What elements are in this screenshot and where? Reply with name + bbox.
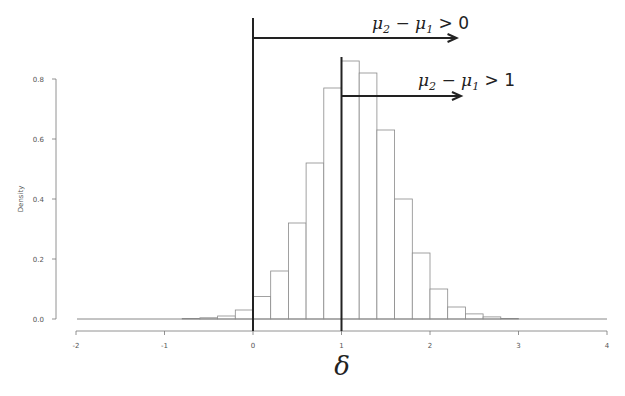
histogram-bar <box>377 130 395 319</box>
histogram-bar <box>235 310 253 319</box>
histogram-bar <box>448 307 466 319</box>
histogram-bar <box>324 88 342 319</box>
y-tick-label: 0.6 <box>33 136 45 144</box>
histogram-bar <box>342 61 360 319</box>
y-axis-label: Density <box>17 186 25 213</box>
histogram-bar <box>465 314 483 319</box>
y-tick-label: 0.8 <box>33 76 44 84</box>
x-axis: -2-101234 <box>73 331 610 350</box>
x-tick-label: 0 <box>251 342 255 350</box>
annotation-label: μ2 − μ1 > 1 <box>418 70 515 93</box>
histogram-bars <box>182 61 518 319</box>
histogram-bar <box>253 297 271 320</box>
annotation-label: μ2 − μ1 > 0 <box>372 13 469 36</box>
x-tick-label: 1 <box>339 342 343 350</box>
histogram-bar <box>306 163 324 319</box>
x-tick-label: 4 <box>605 342 610 350</box>
y-axis: 0.00.20.40.60.8 <box>33 76 56 324</box>
histogram-bar <box>412 253 430 319</box>
x-tick-label: 3 <box>516 342 520 350</box>
histogram-bar <box>359 73 377 319</box>
histogram-bar <box>271 271 289 319</box>
histogram-bar <box>288 223 306 319</box>
histogram-bar <box>395 199 413 319</box>
y-tick-label: 0.4 <box>33 196 45 204</box>
y-tick-label: 0.2 <box>33 256 44 264</box>
x-axis-label: δ <box>334 351 350 381</box>
histogram-bar <box>430 289 448 319</box>
x-tick-label: 2 <box>428 342 432 350</box>
x-tick-label: -2 <box>73 342 80 350</box>
y-tick-label: 0.0 <box>33 316 44 324</box>
histogram-chart: 0.00.20.40.60.8 -2-101234 Density δ μ2 −… <box>0 0 625 396</box>
x-tick-label: -1 <box>161 342 168 350</box>
